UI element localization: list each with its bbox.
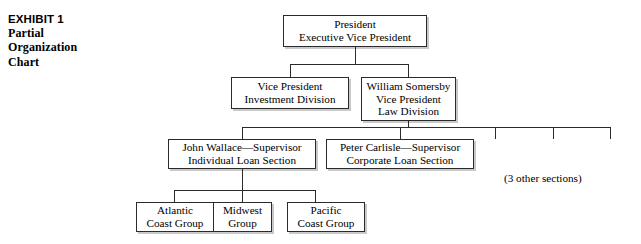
connector-vp-law-drop xyxy=(408,64,409,77)
connector-supervisor-corporate-drop xyxy=(400,127,401,139)
node-vp-law-line-2: Vice President xyxy=(376,93,441,106)
node-supervisor-corporate: Peter Carlisle—Supervisor Corporate Loan… xyxy=(326,139,474,169)
caption-line-1: EXHIBIT 1 xyxy=(8,12,148,26)
node-supervisor-individual-line-2: Individual Loan Section xyxy=(188,154,296,167)
node-president-line-1: President xyxy=(334,18,376,31)
node-president-line-2: Executive Vice President xyxy=(299,31,411,44)
connector-president-drop xyxy=(355,47,356,64)
node-atlantic-line-1: Atlantic xyxy=(157,204,193,217)
connector-other-section-2-stub xyxy=(553,127,554,139)
connector-supervisor-individual-drop xyxy=(242,127,243,139)
node-pacific-coast-group: Pacific Coast Group xyxy=(287,202,365,232)
node-vp-law: William Somersby Vice President Law Divi… xyxy=(361,77,456,121)
connector-level3-bus xyxy=(242,127,611,128)
node-pacific-line-1: Pacific xyxy=(310,204,341,217)
node-supervisor-individual-line-1: John Wallace—Supervisor xyxy=(182,141,301,154)
connector-atlantic-drop xyxy=(174,190,175,202)
node-atlantic-coast-group: Atlantic Coast Group xyxy=(136,202,214,232)
connector-level4-bus xyxy=(174,190,315,191)
organization-chart: EXHIBIT 1 Partial Organization Chart Pre… xyxy=(0,0,641,244)
node-vp-law-line-3: Law Division xyxy=(378,105,439,118)
node-vp-investment-line-2: Investment Division xyxy=(244,93,335,106)
connector-other-section-1-stub xyxy=(495,127,496,139)
node-midwest-line-1: Midwest xyxy=(223,204,262,217)
node-midwest-group: Midwest Group xyxy=(213,202,272,232)
caption-line-4: Chart xyxy=(8,55,148,69)
caption-line-2: Partial xyxy=(8,26,148,40)
connector-other-section-3-stub xyxy=(610,127,611,139)
node-pacific-line-2: Coast Group xyxy=(298,217,355,230)
node-atlantic-line-2: Coast Group xyxy=(147,217,204,230)
node-supervisor-corporate-line-1: Peter Carlisle—Supervisor xyxy=(340,141,460,154)
node-vp-investment-line-1: Vice President xyxy=(258,80,323,93)
connector-level2-bus xyxy=(290,64,409,65)
exhibit-caption: EXHIBIT 1 Partial Organization Chart xyxy=(8,12,148,69)
connector-supervisor-individual-to-bus xyxy=(242,169,243,190)
node-supervisor-corporate-line-2: Corporate Loan Section xyxy=(347,154,454,167)
connector-pacific-drop xyxy=(315,190,316,202)
connector-midwest-drop xyxy=(242,190,243,202)
other-sections-note: (3 other sections) xyxy=(504,172,582,185)
node-midwest-line-2: Group xyxy=(228,217,257,230)
node-president: President Executive Vice President xyxy=(283,15,427,47)
node-supervisor-individual: John Wallace—Supervisor Individual Loan … xyxy=(168,139,316,169)
node-vp-investment: Vice President Investment Division xyxy=(231,77,349,109)
connector-vp-investment-drop xyxy=(290,64,291,77)
caption-line-3: Organization xyxy=(8,40,148,54)
node-vp-law-line-1: William Somersby xyxy=(367,80,451,93)
